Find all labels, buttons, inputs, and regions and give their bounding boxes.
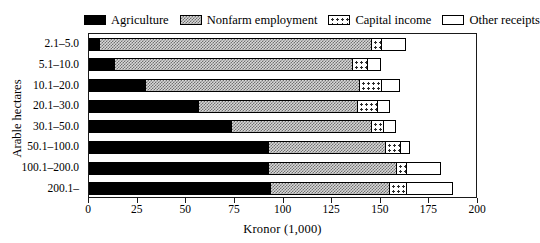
- bar-row: [89, 58, 381, 71]
- chart-legend: AgricultureNonfarm employmentCapital inc…: [84, 12, 484, 28]
- bars-container: [89, 34, 476, 197]
- plot-area: [88, 33, 477, 198]
- legend-label: Nonfarm employment: [207, 14, 318, 27]
- y-axis-tick-labels: Arable hectares 2.1–5.05.1–10.010.1–20.0…: [0, 33, 84, 198]
- bar-row: [89, 79, 400, 92]
- bar-segment-nonfarm-employment: [99, 38, 371, 51]
- bar-segment-nonfarm-employment: [198, 100, 357, 113]
- legend-label: Other receipts: [469, 14, 539, 27]
- bar-segment-other-receipts: [400, 141, 410, 154]
- legend-swatch-icon: [442, 15, 464, 25]
- x-tick-label: 150: [371, 203, 388, 215]
- bar-segment-capital-income: [371, 38, 381, 51]
- bar-row: [89, 141, 410, 154]
- x-axis-tick-labels: 0255075100125150175200: [0, 203, 499, 217]
- bar-row: [89, 162, 441, 175]
- bar-segment-other-receipts: [377, 100, 391, 113]
- legend-label: Agriculture: [111, 14, 169, 27]
- legend-swatch-icon: [328, 15, 350, 25]
- legend-item-capital-income: Capital income: [328, 14, 431, 27]
- legend-item-nonfarm-employment: Nonfarm employment: [180, 14, 318, 27]
- bar-segment-nonfarm-employment: [268, 141, 385, 154]
- bar-segment-other-receipts: [381, 79, 400, 92]
- bar-segment-other-receipts: [367, 58, 381, 71]
- bar-segment-capital-income: [359, 79, 380, 92]
- bar-segment-agriculture: [89, 120, 231, 133]
- y-axis-title: Arable hectares: [10, 71, 25, 167]
- x-tick-label: 75: [228, 203, 240, 215]
- bar-segment-agriculture: [89, 162, 268, 175]
- bar-segment-agriculture: [89, 141, 268, 154]
- bar-row: [89, 120, 396, 133]
- bar-segment-agriculture: [89, 100, 198, 113]
- y-tick-label: 10.1–20.0: [33, 79, 79, 91]
- y-tick-label: 5.1–10.0: [39, 58, 79, 70]
- bar-segment-nonfarm-employment: [268, 162, 396, 175]
- x-tick-label: 0: [85, 203, 91, 215]
- legend-label: Capital income: [355, 14, 431, 27]
- bar-segment-other-receipts: [406, 162, 441, 175]
- x-tick-label: 125: [323, 203, 340, 215]
- bar-row: [89, 182, 453, 195]
- bar-segment-other-receipts: [406, 182, 453, 195]
- x-tick-label: 25: [131, 203, 143, 215]
- bar-segment-nonfarm-employment: [114, 58, 351, 71]
- bar-segment-agriculture: [89, 58, 114, 71]
- y-tick-label: 50.1–100.0: [27, 140, 79, 152]
- legend-swatch-icon: [180, 15, 202, 25]
- bar-segment-other-receipts: [381, 38, 406, 51]
- bar-segment-nonfarm-employment: [231, 120, 371, 133]
- bar-segment-capital-income: [357, 100, 376, 113]
- legend-swatch-icon: [84, 15, 106, 25]
- bar-segment-nonfarm-employment: [145, 79, 359, 92]
- x-tick-label: 200: [468, 203, 485, 215]
- x-axis-title: Kronor (1,000): [88, 222, 477, 237]
- bar-segment-nonfarm-employment: [270, 182, 389, 195]
- x-tick-label: 50: [180, 203, 192, 215]
- bar-segment-capital-income: [352, 58, 368, 71]
- bar-segment-agriculture: [89, 182, 270, 195]
- y-tick-label: 200.1–: [47, 182, 79, 194]
- bar-segment-other-receipts: [383, 120, 397, 133]
- bar-segment-agriculture: [89, 38, 99, 51]
- x-tick-label: 100: [274, 203, 291, 215]
- bar-segment-capital-income: [396, 162, 406, 175]
- y-tick-label: 20.1–30.0: [33, 99, 79, 111]
- bar-segment-capital-income: [389, 182, 407, 195]
- x-tick-label: 175: [420, 203, 437, 215]
- y-tick-label: 30.1–50.0: [33, 120, 79, 132]
- bar-segment-capital-income: [371, 120, 383, 133]
- y-tick-label: 100.1–200.0: [22, 161, 80, 173]
- legend-item-agriculture: Agriculture: [84, 14, 169, 27]
- bar-row: [89, 38, 406, 51]
- legend-item-other-receipts: Other receipts: [442, 14, 539, 27]
- bar-row: [89, 100, 390, 113]
- y-tick-label: 2.1–5.0: [45, 37, 80, 49]
- bar-segment-agriculture: [89, 79, 145, 92]
- bar-segment-capital-income: [385, 141, 401, 154]
